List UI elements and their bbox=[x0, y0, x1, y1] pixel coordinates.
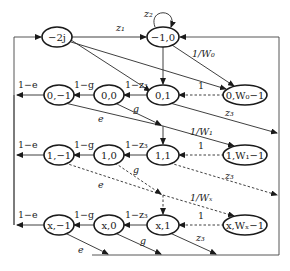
state-0-m1: 0,−1 bbox=[44, 85, 74, 105]
label-e-rx: e bbox=[78, 244, 84, 255]
svg-text:x,−1: x,−1 bbox=[47, 220, 71, 231]
edge-01-z3 bbox=[170, 103, 277, 133]
svg-text:1,−1: 1,−1 bbox=[47, 150, 71, 161]
edge-xm1-e bbox=[65, 233, 108, 254]
state-x-w: x,Wₓ−1 bbox=[223, 215, 267, 235]
label-1-z3-r0: 1−z₃ bbox=[125, 79, 148, 90]
self-loop-start bbox=[154, 13, 172, 27]
state-x-0: x,0 bbox=[94, 215, 124, 235]
label-1-e-r1: 1−e bbox=[18, 139, 38, 150]
label-inv-w1: 1/W₁ bbox=[190, 126, 213, 137]
svg-text:0,1: 0,1 bbox=[155, 90, 171, 101]
svg-text:x,1: x,1 bbox=[155, 220, 170, 231]
label-1-rx: 1 bbox=[198, 210, 204, 221]
svg-text:1,1: 1,1 bbox=[155, 150, 171, 161]
left-return-line bbox=[14, 37, 41, 225]
svg-text:x,0: x,0 bbox=[101, 220, 116, 231]
state-0-w: 0,W₀−1 bbox=[223, 85, 267, 105]
state-0-1: 0,1 bbox=[147, 85, 179, 105]
label-g-r0: g bbox=[133, 103, 139, 114]
label-1-g-r1: 1−g bbox=[74, 139, 94, 150]
svg-text:−2j: −2j bbox=[48, 32, 66, 43]
state-1-0: 1,0 bbox=[94, 145, 124, 165]
label-inv-w0: 1/W₀ bbox=[192, 48, 215, 59]
svg-text:1,0: 1,0 bbox=[101, 150, 117, 161]
label-1-z3-rx: 1−z₃ bbox=[125, 209, 148, 220]
label-z2: z₂ bbox=[143, 8, 153, 19]
state-idle: −2j bbox=[42, 27, 72, 47]
state-1-m1: 1,−1 bbox=[44, 145, 74, 165]
label-1-r1: 1 bbox=[198, 140, 204, 151]
label-g-rx: g bbox=[140, 235, 146, 246]
label-z1: z₁ bbox=[115, 22, 125, 33]
state-transition-diagram: z₁ z₂ 1/W₀ 1−e 1−g 1−z₃ 1 e g 1/W₁ z₃ 1−… bbox=[0, 0, 290, 271]
edge-x1-z3 bbox=[170, 233, 216, 254]
label-e-r0: e bbox=[98, 113, 104, 124]
label-z3-r1: z₃ bbox=[224, 170, 234, 181]
state-1-w: 1,W₁−1 bbox=[223, 145, 267, 165]
edge-x0-g bbox=[115, 233, 161, 254]
label-1-g-rx: 1−g bbox=[74, 209, 94, 220]
svg-text:1,W₁−1: 1,W₁−1 bbox=[226, 150, 265, 161]
label-z3-rx: z₃ bbox=[195, 232, 205, 243]
label-1-z3-r1: 1−z₃ bbox=[125, 139, 148, 150]
svg-text:0,W₀−1: 0,W₀−1 bbox=[226, 90, 265, 101]
edge-0m1-e bbox=[65, 103, 163, 126]
label-1-e-rx: 1−e bbox=[18, 209, 38, 220]
label-e-r1: e bbox=[98, 179, 104, 190]
label-inv-wx: 1/Wₓ bbox=[190, 192, 213, 203]
svg-text:−1,0: −1,0 bbox=[151, 32, 175, 43]
svg-text:x,Wₓ−1: x,Wₓ−1 bbox=[226, 220, 264, 231]
state-x-m1: x,−1 bbox=[44, 215, 74, 235]
label-1-e-r0: 1−e bbox=[18, 79, 38, 90]
label-z3-r0: z₃ bbox=[224, 107, 234, 118]
label-1-g-r0: 1−g bbox=[74, 79, 94, 90]
state-x-1: x,1 bbox=[147, 215, 179, 235]
edge-11-z3 bbox=[170, 163, 277, 195]
label-g-r1: g bbox=[133, 164, 139, 175]
label-1-r0: 1 bbox=[198, 80, 204, 91]
state-start: −1,0 bbox=[147, 27, 179, 47]
state-1-1: 1,1 bbox=[147, 145, 179, 165]
svg-text:0,0: 0,0 bbox=[101, 90, 117, 101]
state-0-0: 0,0 bbox=[94, 85, 124, 105]
edge-1m1-e bbox=[65, 163, 163, 195]
svg-text:0,−1: 0,−1 bbox=[47, 90, 71, 101]
